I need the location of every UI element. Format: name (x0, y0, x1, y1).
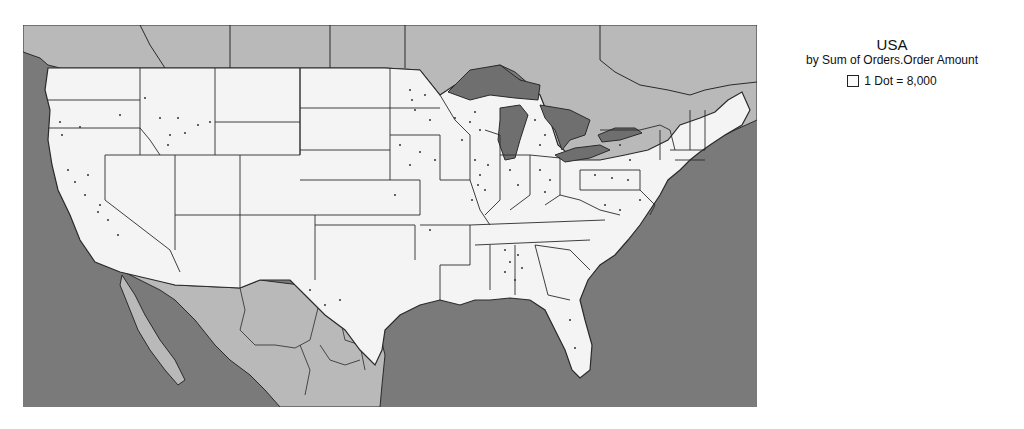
legend-subtitle: by Sum of Orders.Order Amount (760, 53, 1024, 67)
square-dot-icon (847, 75, 859, 87)
map-legend: USA by Sum of Orders.Order Amount 1 Dot … (760, 36, 1024, 88)
legend-key: 1 Dot = 8,000 (760, 74, 1024, 88)
legend-title: USA (760, 36, 1024, 53)
map-canvas[interactable] (23, 25, 757, 407)
legend-key-label: 1 Dot = 8,000 (864, 74, 936, 88)
